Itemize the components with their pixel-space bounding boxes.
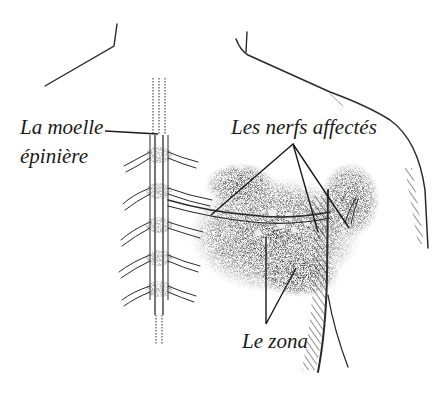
shingles-illustration (0, 0, 446, 405)
label-shingles: Le zona (242, 331, 308, 352)
leader-spinal-cord (105, 131, 158, 134)
label-spinal-cord-line2: épinière (20, 146, 88, 167)
spinal-cord (150, 78, 168, 345)
label-affected-nerves: Les nerfs affectés (231, 117, 377, 138)
label-spinal-cord: La moelle (20, 117, 103, 138)
shingles-rash (190, 162, 380, 297)
